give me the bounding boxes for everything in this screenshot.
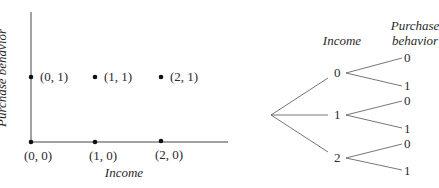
branch-2-0: [346, 144, 402, 158]
point-label-1-0: (1, 0): [89, 148, 117, 164]
tree-leaf-0-0: 0: [404, 50, 411, 66]
point-2-1: [159, 75, 164, 80]
branch-2-1: [346, 158, 402, 170]
tree-income-header: Income: [323, 33, 361, 49]
tree-income-node-1: 1: [334, 107, 341, 123]
branch-0-1: [346, 73, 402, 86]
tree-leaf-2-1: 1: [404, 163, 411, 179]
point-label-1-1: (1, 1): [104, 69, 132, 85]
point-0-0: [29, 140, 34, 145]
branch-root-2: [271, 115, 328, 152]
point-label-2-1: (2, 1): [170, 69, 198, 85]
tree-leaf-1-1: 1: [404, 121, 411, 137]
point-1-1: [93, 75, 98, 80]
tree-income-node-0: 0: [334, 65, 341, 81]
point-label-2-0: (2, 0): [155, 147, 183, 163]
tree-purchase-header-line1: Purchase: [391, 18, 439, 34]
tree-purchase-header-line2: behavior: [392, 33, 438, 49]
point-0-1: [29, 75, 34, 80]
branch-1-0: [346, 101, 402, 115]
point-label-0-1: (0, 1): [40, 69, 68, 85]
branch-1-1: [346, 115, 402, 128]
branch-0-0: [346, 58, 402, 73]
tree-leaf-0-1: 1: [404, 78, 411, 94]
point-label-0-0: (0, 0): [24, 148, 52, 164]
tree-leaf-1-0: 0: [404, 93, 411, 109]
point-2-0: [159, 139, 164, 144]
y-axis-label-text: Purchase behavior: [0, 29, 10, 127]
branch-root-0: [271, 78, 328, 115]
point-1-0: [93, 140, 98, 145]
tree-income-node-2: 2: [334, 150, 341, 166]
x-axis-label: Income: [105, 165, 143, 181]
tree-leaf-2-0: 0: [404, 136, 411, 152]
